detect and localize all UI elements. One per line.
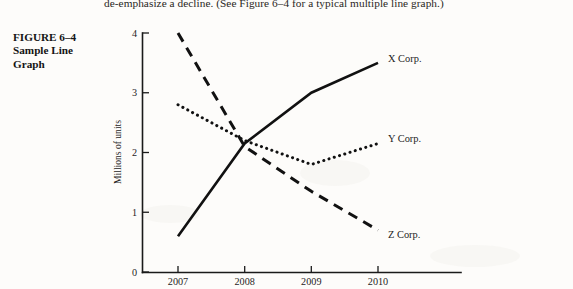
chart-canvas: 4 3 2 1 0 Millions of units 2007 2008 20…: [0, 0, 573, 289]
y-tick-label: 0: [132, 267, 137, 278]
y-tick-label: 1: [132, 207, 137, 218]
y-tick-label: 4: [132, 28, 137, 39]
line-chart: 4 3 2 1 0 Millions of units 2007 2008 20…: [0, 0, 573, 289]
y-tick-label: 2: [132, 147, 137, 158]
x-tick-label: 2010: [368, 276, 388, 287]
x-axis-ticks: [178, 266, 378, 273]
y-tick-label: 3: [132, 87, 137, 98]
series-label-z-corp: Z Corp.: [388, 229, 420, 240]
x-tick-label: 2008: [235, 276, 255, 287]
y-axis-title: Millions of units: [112, 120, 123, 184]
series-line-x-corp: [178, 63, 378, 236]
x-axis-tick-labels: 2007 2008 2009 2010: [168, 276, 388, 287]
x-tick-label: 2007: [168, 276, 188, 287]
x-tick-label: 2009: [301, 276, 321, 287]
series-line-y-corp: [178, 105, 378, 165]
series-label-x-corp: X Corp.: [388, 53, 421, 64]
y-axis-tick-labels: 4 3 2 1 0: [132, 28, 137, 278]
y-axis-ticks: [143, 33, 150, 272]
series-label-y-corp: Y Corp.: [388, 133, 421, 144]
series-line-z-corp: [178, 33, 378, 230]
